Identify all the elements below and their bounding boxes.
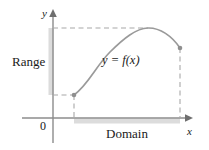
x-axis-arrow	[185, 114, 193, 122]
graph-canvas	[0, 0, 209, 150]
function-equation-label: y = f(x)	[102, 54, 140, 67]
origin-label: 0	[40, 120, 46, 132]
domain-label: Domain	[106, 127, 148, 140]
function-graph-figure: Range Domain 0 y x y = f(x)	[0, 0, 209, 150]
left-endpoint-dot	[72, 93, 77, 98]
x-axis-label: x	[187, 126, 192, 137]
domain-band	[74, 119, 180, 124]
right-endpoint-dot	[178, 46, 183, 51]
range-label: Range	[12, 55, 45, 68]
y-axis-label: y	[42, 8, 47, 19]
y-axis-arrow	[49, 9, 57, 17]
